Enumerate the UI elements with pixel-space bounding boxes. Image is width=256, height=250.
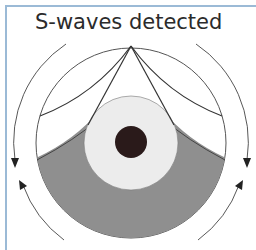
arrow-down-right-icon bbox=[243, 158, 251, 168]
arrow-up-left-icon bbox=[19, 180, 27, 190]
inner-core bbox=[115, 126, 147, 158]
arrow-down-left-icon bbox=[11, 158, 19, 168]
earth-cross-section bbox=[0, 0, 256, 250]
arrow-up-right-icon bbox=[235, 180, 243, 190]
